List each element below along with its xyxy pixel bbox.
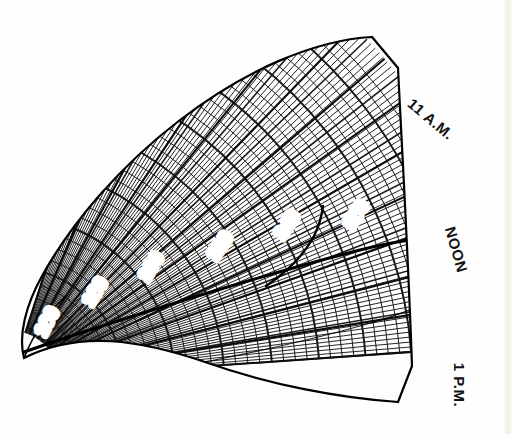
sundial-sector-chart: 160180200220240260 11 A.M.NOON1 P.M. — [0, 0, 525, 434]
hour-label-group: 11 A.M.NOON1 P.M. — [405, 95, 472, 407]
sector-grid — [24, 0, 502, 377]
radial-minor-lines — [25, 0, 502, 377]
figure-canvas: 160180200220240260 11 A.M.NOON1 P.M. — [0, 0, 525, 434]
hour-label-1-p-m: 1 P.M. — [451, 363, 468, 407]
hour-label-11-a-m: 11 A.M. — [405, 95, 458, 143]
hour-label-noon: NOON — [442, 225, 471, 275]
